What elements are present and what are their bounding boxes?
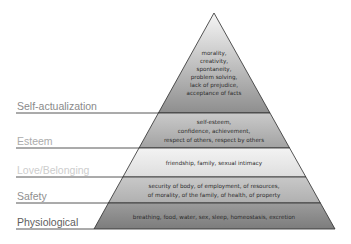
level-label-self-actualization: Self-actualization [17, 100, 97, 112]
tier-line: friendship, family, sexual intimacy [166, 160, 263, 167]
tier-line: breathing, food, water, sex, sleep, home… [133, 214, 296, 221]
tier-line: self-esteem, [197, 119, 231, 125]
level-label-esteem: Esteem [17, 135, 53, 147]
level-label-love-belonging: Love/Belonging [17, 164, 90, 176]
tier-line: acceptance of facts [187, 90, 242, 97]
level-label-physiological: Physiological [17, 216, 78, 228]
tier-line: of morality, of the family, of health, o… [148, 192, 281, 199]
tier-line: security of body, of employment, of reso… [149, 183, 280, 190]
level-label-safety: Safety [17, 190, 48, 202]
tier-line: morality, [202, 50, 227, 57]
tier-safety [108, 177, 320, 203]
tier-text-love-belonging: friendship, family, sexual intimacy [166, 160, 263, 167]
tier-text-physiological: breathing, food, water, sex, sleep, home… [133, 214, 296, 221]
tier-line: creativity, [200, 58, 228, 65]
tier-line: respect of others, respect by others [164, 137, 264, 144]
tier-line: confidence, achievement, [178, 128, 251, 134]
tier-line: spontaneity, [197, 66, 232, 73]
tier-line: lack of prejudice, [190, 82, 238, 89]
maslow-pyramid-diagram: Self-actualization Esteem Love/Belonging… [0, 0, 351, 244]
tier-line: problem solving, [191, 74, 238, 81]
